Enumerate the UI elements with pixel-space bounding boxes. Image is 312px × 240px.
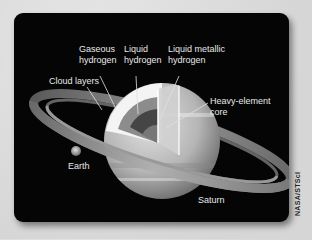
label-cloud-layers: Cloud layers [49, 76, 99, 87]
label-liquid-metallic-hydrogen: Liquid metallic hydrogen [168, 44, 225, 66]
label-liquid-hydrogen: Liquid hydrogen [124, 44, 162, 66]
label-saturn: Saturn [198, 195, 225, 206]
earth-globe [71, 146, 81, 156]
label-earth: Earth [68, 161, 90, 172]
diagram-card: Gaseous hydrogen Liquid hydrogen Liquid … [14, 13, 289, 222]
label-gaseous-hydrogen: Gaseous hydrogen [79, 44, 117, 66]
label-heavy-element-core: Heavy-element core [210, 96, 271, 118]
image-credit: NASA/STScI [294, 172, 301, 216]
